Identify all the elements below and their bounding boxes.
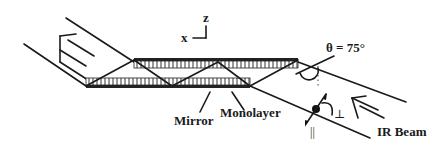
diagram-canvas: z x θ = 75° Mirror Monolayer IR Beam ⊥ |…	[0, 0, 441, 147]
angle-marker	[296, 56, 334, 86]
outgoing-beam-arrow-icon	[60, 34, 94, 80]
ir-beam-label: IR Beam	[377, 124, 427, 139]
parallel-label: ||	[310, 125, 315, 139]
polarization-marker	[305, 93, 332, 127]
axes-indicator	[193, 26, 206, 38]
perpendicular-label: ⊥	[334, 107, 345, 121]
axis-z-label: z	[203, 10, 209, 25]
incoming-beam-arrow-icon	[352, 96, 384, 118]
mirror-label: Mirror	[174, 113, 214, 128]
outgoing-beam	[24, 18, 134, 86]
axis-x-label: x	[181, 30, 188, 45]
angle-label: θ = 75°	[326, 40, 365, 55]
monolayer-label: Monolayer	[220, 105, 281, 120]
